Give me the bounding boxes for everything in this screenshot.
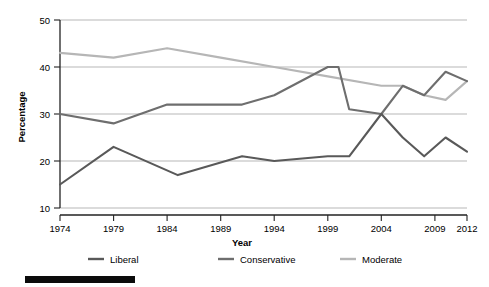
y-tick-label-20: 20 (39, 156, 50, 167)
legend-label-moderate[interactable]: Moderate (362, 254, 402, 265)
chart-canvas: 50 40 30 20 10 Percentage 1974 1979 1984… (0, 0, 489, 287)
line-chart: 50 40 30 20 10 Percentage 1974 1979 1984… (0, 0, 489, 287)
redaction-bar (25, 276, 135, 283)
legend-label-liberal[interactable]: Liberal (110, 254, 139, 265)
x-axis: 1974 1979 1984 1989 1994 1999 2004 2009 … (49, 215, 477, 248)
x-tick-label-1974: 1974 (49, 223, 70, 234)
x-tick-label-2009: 2009 (424, 223, 445, 234)
x-tick-label-2004: 2004 (371, 223, 392, 234)
y-tick-label-30: 30 (39, 109, 50, 120)
y-axis: 50 40 30 20 10 Percentage (16, 15, 60, 214)
legend-label-conservative[interactable]: Conservative (240, 254, 295, 265)
y-axis-title: Percentage (16, 91, 27, 142)
x-tick-label-1999: 1999 (317, 223, 338, 234)
series-line-conservative (60, 67, 467, 123)
y-tick-label-40: 40 (39, 62, 50, 73)
y-tick-label-10: 10 (39, 203, 50, 214)
gridlines (60, 20, 467, 208)
series-group (60, 48, 467, 184)
x-axis-title: Year (232, 237, 252, 248)
x-tick-label-1984: 1984 (157, 223, 178, 234)
chart-legend: Liberal Conservative Moderate (88, 254, 402, 265)
x-tick-label-2012: 2012 (456, 223, 477, 234)
y-tick-label-50: 50 (39, 15, 50, 26)
x-tick-label-1989: 1989 (210, 223, 231, 234)
series-line-liberal (60, 114, 467, 185)
series-line-moderate (60, 48, 467, 100)
x-tick-label-1994: 1994 (264, 223, 285, 234)
x-tick-label-1979: 1979 (103, 223, 124, 234)
